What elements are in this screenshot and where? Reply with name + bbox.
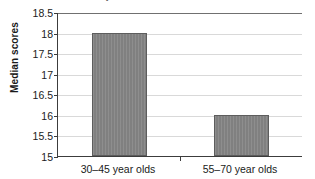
y-axis-tick-label: 16.5 <box>14 89 53 101</box>
bar <box>92 33 147 156</box>
y-axis-tickmark <box>54 75 58 76</box>
y-axis-tick-label: 18.5 <box>14 7 53 19</box>
x-axis-tickmark <box>180 156 181 161</box>
y-axis-tick-label: 17.5 <box>14 48 53 60</box>
x-axis-tick-labels: 30–45 year olds55–70 year olds <box>57 163 302 179</box>
y-axis-tickmark <box>54 136 58 137</box>
y-axis-tickmark <box>54 95 58 96</box>
y-axis-tick-label: 15.5 <box>14 130 53 142</box>
y-axis-tickmark <box>54 13 58 14</box>
y-axis-tick-label: 16 <box>14 110 53 122</box>
y-axis-tick-label: 15 <box>14 151 53 163</box>
y-axis-tick-labels: 18.51817.51716.51615.515 <box>14 0 53 179</box>
y-axis-tick-label: 18 <box>14 28 53 40</box>
bar <box>214 115 269 156</box>
y-axis-tick-label: 17 <box>14 69 53 81</box>
y-axis-tickmark <box>54 157 58 158</box>
y-axis-tickmark <box>54 34 58 35</box>
chart-title-fragment: y <box>104 0 144 1</box>
bar-chart: y Median scores 18.51817.51716.51615.515… <box>0 0 315 179</box>
x-axis-tick-label: 30–45 year olds <box>81 163 156 175</box>
gridline <box>58 13 302 14</box>
plot-area <box>57 13 302 157</box>
y-axis-tickmark <box>54 116 58 117</box>
y-axis-tickmark <box>54 54 58 55</box>
x-axis-tick-label: 55–70 year olds <box>203 163 278 175</box>
